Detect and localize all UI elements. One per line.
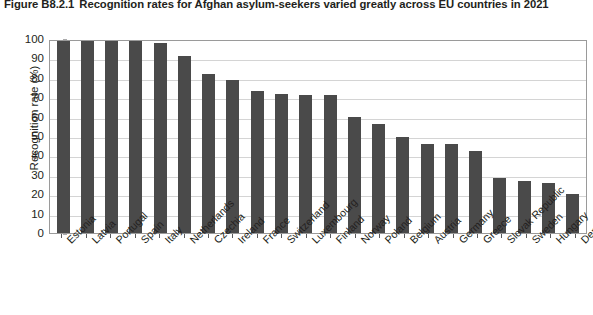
bar-chart: Recognition rate (%) 1009080706050403020… (0, 26, 593, 315)
x-axis-tick-label: Switzerland (285, 238, 293, 246)
x-axis-tick-label: Netherlands (188, 238, 196, 246)
x-axis-tick-label: Ireland (236, 238, 244, 246)
y-axis-tick-label: 0 (38, 228, 44, 240)
x-axis-tick-label: Italy (163, 238, 171, 246)
page-title: Figure B8.2.1Recognition rates for Afgha… (4, 0, 589, 12)
x-axis-tick-label: Norway (359, 238, 367, 246)
x-axis-tick-label: Slovak Republic (505, 238, 513, 246)
x-axis-tick-label: Denmark (579, 238, 587, 246)
y-axis-tick-label: 90 (31, 54, 44, 66)
figure-number: Figure B8.2.1 (4, 0, 74, 10)
bar (178, 56, 191, 233)
bar (57, 40, 70, 233)
x-axis-tick-label: Poland (383, 238, 391, 246)
x-axis-tick-label: Spain (139, 238, 147, 246)
x-axis-tick-label: Estonia (65, 238, 73, 246)
figure-title-text: Recognition rates for Afghan asylum-seek… (79, 0, 548, 10)
x-axis-tick-label: Latvia (90, 238, 98, 246)
x-axis-tick-label: Luxembourg (310, 238, 318, 246)
x-axis-tick-label: France (261, 238, 269, 246)
x-axis-tick-label: Finland (334, 238, 342, 246)
y-axis-tick-label: 80 (31, 73, 44, 85)
x-axis-tick-label: Austria (432, 238, 440, 246)
x-axis-tick-label: Belgium (408, 238, 416, 246)
x-axis-tick-label: Sweden (530, 238, 538, 246)
y-axis-tick-label: 60 (31, 112, 44, 124)
y-axis-tick-label: 100 (25, 34, 44, 46)
y-axis-tick-label: 10 (31, 209, 44, 221)
bar (81, 40, 94, 233)
x-axis-tick-labels: EstoniaLatviaPortugalSpainItalyNetherlan… (49, 238, 587, 315)
x-axis-tick-label: Greece (481, 238, 489, 246)
y-axis-tick-label: 70 (31, 92, 44, 104)
bar (202, 74, 215, 233)
bar (105, 40, 118, 233)
bar (154, 43, 167, 233)
bar (251, 91, 264, 233)
x-axis-tick-label: Portugal (114, 238, 122, 246)
bar (275, 94, 288, 233)
bar (129, 40, 142, 233)
x-axis-tick-label: Czechia (212, 238, 220, 246)
y-axis-tick-label: 30 (31, 170, 44, 182)
y-axis-tick-label: 20 (31, 189, 44, 201)
y-axis-tick-label: 40 (31, 151, 44, 163)
y-axis-tick-labels: 1009080706050403020100 (18, 40, 44, 234)
y-axis-tick-label: 50 (31, 131, 44, 143)
x-axis-tick-label: Germany (457, 238, 465, 246)
x-axis-tick-label: Hungary (554, 238, 562, 246)
